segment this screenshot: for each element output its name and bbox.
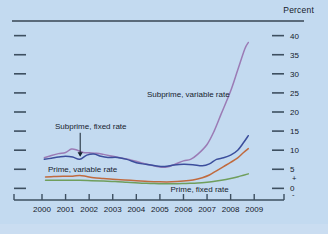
y-tick-label: 15 [290, 127, 299, 136]
y-tick-label: 20 [290, 108, 299, 117]
y-tick-label: 5 [290, 165, 295, 174]
x-tick-label: 2002 [80, 205, 98, 214]
source-note-cropped [6, 226, 186, 233]
y-tick-label: 30 [290, 70, 299, 79]
x-tick-label: 2001 [57, 205, 75, 214]
zero-plus-sign: + [292, 174, 297, 183]
series-line-1 [44, 136, 248, 167]
x-tick-label: 2008 [222, 205, 240, 214]
x-tick-label: 2006 [175, 205, 193, 214]
zero-minus-sign: - [292, 190, 295, 199]
y-tick-label: 10 [290, 146, 299, 155]
x-tick-label: 2004 [127, 205, 145, 214]
y-tick-label: 40 [290, 32, 299, 41]
x-tick-label: 2005 [151, 205, 169, 214]
x-tick-label: 2009 [245, 205, 263, 214]
y-tick-label: 35 [290, 51, 299, 60]
x-tick-label: 2003 [104, 205, 122, 214]
chart-figure: Percent 4035302520151050+-20002001200220… [0, 0, 328, 234]
x-tick-label: 2007 [198, 205, 216, 214]
series-line-0 [44, 43, 248, 168]
y-tick-label: 25 [290, 89, 299, 98]
series-label-2: Subprime, fixed rate [55, 122, 127, 131]
series-label-1: Prime, variable rate [48, 165, 118, 174]
series-label-0: Subprime, variable rate [147, 90, 230, 99]
x-tick-label: 2000 [33, 205, 51, 214]
callout-arrow-head [78, 152, 83, 157]
series-label-3: Prime, fixed rate [171, 185, 230, 194]
line-chart-plot: 4035302520151050+-2000200120022003200420… [0, 0, 328, 234]
